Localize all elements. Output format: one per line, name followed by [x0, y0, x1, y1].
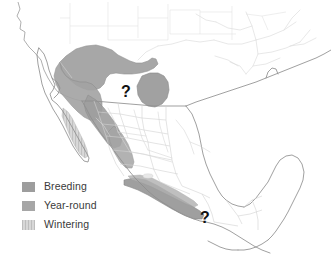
question-mark-north-icon: ?: [121, 84, 131, 100]
legend-swatch-year-round: [22, 201, 35, 211]
inland-water: [143, 174, 153, 178]
legend-label-year-round: Year-round: [44, 200, 97, 211]
question-mark-south-icon: ?: [200, 210, 210, 226]
legend-swatch-wintering: [22, 220, 35, 230]
map-legend: Breeding Year-round Wintering: [22, 180, 97, 231]
legend-item-wintering: Wintering: [22, 218, 97, 231]
legend-label-breeding: Breeding: [44, 181, 87, 192]
legend-swatch-breeding: [22, 182, 35, 192]
map-background: [0, 0, 331, 278]
legend-item-year-round: Year-round: [22, 199, 97, 212]
legend-item-breeding: Breeding: [22, 180, 97, 193]
map-graphic: [0, 0, 331, 278]
legend-label-wintering: Wintering: [44, 219, 89, 230]
range-map: ? ? Breeding Year-round Wintering: [0, 0, 331, 278]
